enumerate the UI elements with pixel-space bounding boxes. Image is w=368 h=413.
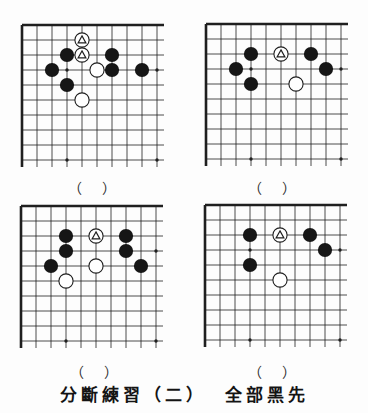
grid-lines [22,25,164,167]
black-stone [243,228,257,242]
black-stone [60,48,74,62]
star-point [338,248,341,251]
white-stone [289,77,303,91]
white-stone [89,259,103,273]
star-point [155,68,158,71]
board-svg [201,201,347,347]
star-point [64,339,67,342]
black-stone [45,63,59,77]
black-stone [105,63,119,77]
black-stone [318,243,332,257]
star-point [249,67,252,70]
black-stone [134,259,148,273]
go-board-4 [201,201,347,347]
black-stone [243,258,257,272]
star-point [248,248,251,251]
black-stone [319,62,333,76]
star-point [249,157,252,160]
board-svg [202,20,348,166]
grid-lines [21,206,163,348]
go-board-3 [17,202,163,348]
star-point [339,67,342,70]
black-stone [229,62,243,76]
stones [243,228,332,287]
black-stone [244,47,258,61]
star-point [155,158,158,161]
black-stone [135,63,149,77]
white-stone [75,93,89,107]
white-stone [273,273,287,287]
black-stone [105,48,119,62]
grid-lines [206,24,348,166]
black-stone [119,229,133,243]
star-point [248,338,251,341]
black-stone [244,77,258,91]
black-stone [119,244,133,258]
caption-instruction: 全部黑先 [225,385,309,405]
star-point [338,338,341,341]
star-point [65,158,68,161]
book-page: （ ） （ ） （ ） （ ） 分斷練習（二）全部黑先 [0,0,368,413]
black-stone [304,47,318,61]
black-stone [303,228,317,242]
caption-title: 分斷練習（二） [60,385,207,405]
star-point [65,68,68,71]
black-stone [60,78,74,92]
board-svg [17,202,163,348]
star-point [154,249,157,252]
answer-blank-3: （ ） [53,361,137,381]
answer-blank-4: （ ） [231,361,315,381]
answer-blank-2: （ ） [231,177,315,197]
go-board-1 [18,21,164,167]
star-point [154,339,157,342]
page-caption: 分斷練習（二）全部黑先 [0,381,368,406]
white-stone [90,63,104,77]
black-stone [44,259,58,273]
black-stone [59,229,73,243]
go-board-2 [202,20,348,166]
white-stone [59,274,73,288]
black-stone [59,244,73,258]
star-point [339,157,342,160]
answer-blank-1: （ ） [51,177,135,197]
board-svg [18,21,164,167]
